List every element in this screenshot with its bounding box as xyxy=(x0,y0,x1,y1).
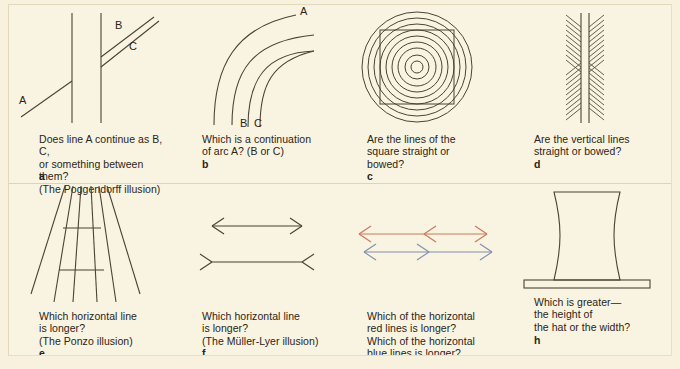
panel-h: Which is greater— the height of the hat … xyxy=(504,184,672,356)
line-b-segment xyxy=(101,17,154,57)
panel-c-caption: Are the lines of the square straight or … xyxy=(367,133,497,170)
panel-b-letter: b xyxy=(202,158,208,170)
arc-a xyxy=(214,15,296,125)
colored-arrows-figure xyxy=(339,184,504,306)
panel-c: Are the lines of the square straight or … xyxy=(339,5,504,183)
arc-b xyxy=(232,35,314,125)
figure-page: A B C Does line A continue as B, C, or s… xyxy=(0,0,680,369)
top-hat-figure xyxy=(504,184,672,306)
label-b: B xyxy=(115,19,122,31)
panel-e-caption: Which horizontal line is longer? (The Po… xyxy=(39,310,174,347)
square-circles-figure xyxy=(339,5,504,130)
arc-c xyxy=(248,51,314,127)
ponzo-figure xyxy=(9,184,174,306)
muller-lyer-line-inward xyxy=(200,254,314,270)
panel-a-letter: a xyxy=(39,170,45,182)
panel-g: Which of the horizontal red lines is lon… xyxy=(339,184,504,356)
arc-c2 xyxy=(260,51,314,127)
panel-e: Which horizontal line is longer? (The Po… xyxy=(9,184,174,356)
panel-a: A B C Does line A continue as B, C, or s… xyxy=(9,5,174,183)
poggendorff-figure: A B C xyxy=(9,5,174,130)
hat-brim xyxy=(524,280,650,288)
label-a: A xyxy=(19,94,27,106)
hat-crown xyxy=(554,192,620,280)
chevron-hatching xyxy=(566,15,604,120)
converging-lines xyxy=(31,186,140,302)
panel-d-letter: d xyxy=(534,158,540,170)
label-b: B xyxy=(240,117,247,129)
panel-g-caption: Which of the horizontal red lines is lon… xyxy=(367,310,512,356)
panel-c-letter: c xyxy=(367,170,373,182)
concentric-circles xyxy=(362,12,472,122)
panel-e-letter: e xyxy=(39,347,45,356)
label-a: A xyxy=(300,5,308,17)
panel-h-caption: Which is greater— the height of the hat … xyxy=(534,296,672,333)
panel-b: A B C Which is a continuation of arc A? … xyxy=(174,5,339,183)
panel-d: Are the vertical lines straight or bowed… xyxy=(504,5,672,183)
figure-plate: A B C Does line A continue as B, C, or s… xyxy=(8,4,672,356)
panel-f-letter: f xyxy=(202,347,206,356)
red-lines xyxy=(359,226,487,242)
arc-continuation-figure: A B C xyxy=(174,5,339,130)
chevron-vertical-lines-figure xyxy=(504,5,672,130)
panel-f-caption: Which horizontal line is longer? (The Mü… xyxy=(202,310,347,347)
line-a-segment xyxy=(21,81,72,117)
muller-lyer-line-outward xyxy=(212,218,302,234)
label-c: C xyxy=(129,40,137,52)
muller-lyer-figure xyxy=(174,184,339,306)
panel-f: Which horizontal line is longer? (The Mü… xyxy=(174,184,339,356)
panel-d-caption: Are the vertical lines straight or bowed… xyxy=(534,133,672,158)
panel-h-letter: h xyxy=(534,334,540,346)
label-c: C xyxy=(254,117,262,129)
blue-lines xyxy=(364,244,492,260)
panel-b-caption: Which is a continuation of arc A? (B or … xyxy=(202,133,342,158)
